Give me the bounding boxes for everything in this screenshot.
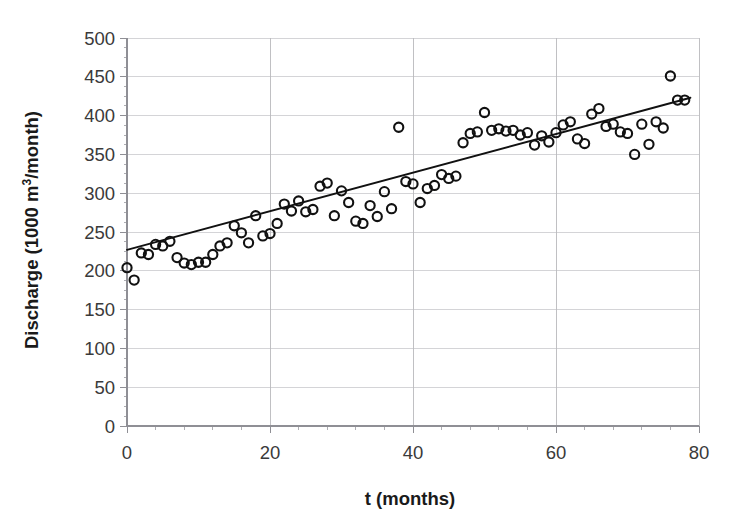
data-point <box>130 276 139 285</box>
y-tick-label: 500 <box>84 28 115 49</box>
data-points <box>122 71 689 284</box>
trend-line <box>127 98 690 250</box>
data-point <box>380 187 389 196</box>
y-tick-label: 0 <box>105 416 115 437</box>
y-axis-tick-labels: 050100150200250300350400450500 <box>84 28 115 437</box>
data-point <box>330 211 339 220</box>
data-point <box>208 250 217 259</box>
data-point <box>416 198 425 207</box>
x-tick-label: 40 <box>403 442 424 463</box>
data-point <box>287 206 296 215</box>
data-point <box>237 228 246 237</box>
y-tick-label: 250 <box>84 222 115 243</box>
y-tick-label: 100 <box>84 338 115 359</box>
data-point <box>580 139 589 148</box>
data-point <box>666 71 675 80</box>
y-axis-title-prefix: Discharge (1000 m <box>21 185 42 349</box>
scatter-chart-svg: 050100150200250300350400450500 020406080… <box>0 0 739 526</box>
data-point <box>373 212 382 221</box>
y-tick-label: 400 <box>84 105 115 126</box>
data-point <box>530 140 539 149</box>
y-tick-label: 200 <box>84 260 115 281</box>
data-point <box>366 201 375 210</box>
chart-figure: 050100150200250300350400450500 020406080… <box>0 0 739 526</box>
y-axis-title-group: Discharge (1000 m3/month) <box>20 111 42 349</box>
x-axis-tick-labels: 020406080 <box>122 442 709 463</box>
data-point <box>644 140 653 149</box>
data-point <box>659 123 668 132</box>
y-tick-label: 350 <box>84 144 115 165</box>
y-tick-label: 450 <box>84 66 115 87</box>
data-point <box>544 137 553 146</box>
x-tick-label: 0 <box>122 442 132 463</box>
y-tick-label: 300 <box>84 183 115 204</box>
y-axis-ticks <box>120 38 127 426</box>
x-tick-label: 80 <box>689 442 710 463</box>
data-point <box>244 238 253 247</box>
x-tick-label: 60 <box>546 442 567 463</box>
x-axis-title: t (months) <box>365 488 455 509</box>
y-tick-label: 150 <box>84 299 115 320</box>
data-point <box>273 219 282 228</box>
data-point <box>394 123 403 132</box>
data-point <box>458 138 467 147</box>
data-point <box>344 198 353 207</box>
y-axis-title: Discharge (1000 m3/month) <box>20 111 42 349</box>
y-tick-label: 50 <box>94 377 115 398</box>
y-axis-title-suffix: /month) <box>21 111 42 179</box>
data-point <box>387 204 396 213</box>
data-point <box>637 120 646 129</box>
x-axis-ticks <box>127 426 699 433</box>
data-point <box>594 104 603 113</box>
x-tick-label: 20 <box>260 442 281 463</box>
